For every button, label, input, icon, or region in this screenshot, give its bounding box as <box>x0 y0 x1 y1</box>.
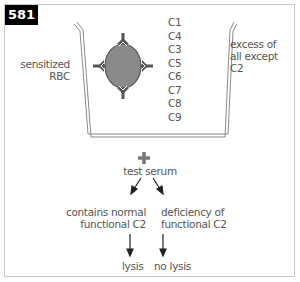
normal-c2-condition: contains normal functional C2 <box>60 206 146 230</box>
no-lysis-result: no lysis <box>154 260 191 272</box>
plus-icon <box>138 152 150 164</box>
component-item: C6 <box>168 70 181 84</box>
test-serum-label: test serum <box>110 165 190 177</box>
component-item: C7 <box>168 84 181 98</box>
deficient-c2-condition: deficiency of functional C2 <box>161 206 241 230</box>
component-item: C5 <box>168 57 181 71</box>
complement-components-list: C1 C4 C3 C5 C6 C7 C8 C9 <box>168 16 181 124</box>
component-item: C1 <box>168 16 181 30</box>
component-item: C3 <box>168 43 181 57</box>
component-item: C8 <box>168 97 181 111</box>
sensitized-rbc-label: sensitized RBC <box>18 58 70 82</box>
lysis-result: lysis <box>122 260 144 272</box>
component-item: C9 <box>168 111 181 125</box>
rbc-cell-icon <box>93 33 153 99</box>
reaction-well <box>74 22 237 137</box>
component-item: C4 <box>168 30 181 44</box>
excess-label: excess of all except C2 <box>230 38 278 74</box>
